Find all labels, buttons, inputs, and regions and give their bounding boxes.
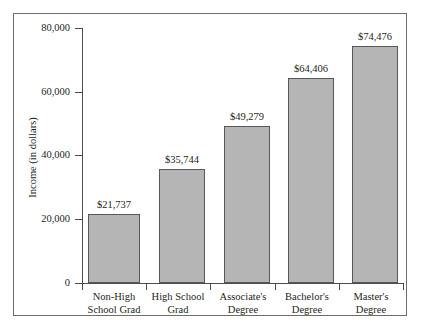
x-tick-mark-5 <box>403 283 404 290</box>
x-tick-mark-4 <box>339 283 340 290</box>
x-tick-mark-3 <box>275 283 276 290</box>
x-tick-mark-0 <box>82 283 83 290</box>
x-category-label-line-2: School Grad <box>80 304 148 317</box>
bar-value-label-masters-degree: $74,476 <box>335 31 415 42</box>
x-axis-line <box>82 283 404 284</box>
y-tick-label-40000: 40,000 <box>8 150 70 161</box>
bar-high-school-grad <box>159 169 205 283</box>
x-category-label-line-1: Associate's <box>209 291 277 304</box>
x-category-label-line-2: Grad <box>144 304 212 317</box>
bar-masters-degree <box>352 46 398 283</box>
y-axis-line <box>82 28 83 284</box>
x-category-label-line-1: High School <box>144 291 212 304</box>
bar-bachelors-degree <box>288 78 334 283</box>
x-category-label-line-2: Degree <box>273 304 341 317</box>
x-category-label-line-2: Degree <box>337 304 405 317</box>
bar-non-high-school-grad <box>88 214 140 283</box>
y-tick-mark-0 <box>75 283 82 284</box>
bar-value-label-non-high-school-grad: $21,737 <box>74 199 154 210</box>
bar-value-label-high-school-grad: $35,744 <box>142 154 222 165</box>
bar-associates-degree <box>224 126 270 283</box>
x-tick-mark-1 <box>146 283 147 290</box>
y-tick-mark-40000 <box>75 155 82 156</box>
x-category-label-line-2: Degree <box>209 304 277 317</box>
bar-chart-figure: Income (in dollars) 0 20,000 40,000 60,0… <box>0 0 423 332</box>
bar-value-label-associates-degree: $49,279 <box>207 111 287 122</box>
y-tick-label-60000: 60,000 <box>8 87 70 98</box>
plot-area: Income (in dollars) 0 20,000 40,000 60,0… <box>0 0 423 332</box>
y-tick-mark-60000 <box>75 92 82 93</box>
x-category-label-high-school-grad: High School Grad <box>144 291 212 316</box>
x-category-label-non-high-school-grad: Non-High School Grad <box>80 291 148 316</box>
y-tick-label-20000: 20,000 <box>8 214 70 225</box>
x-category-label-line-1: Master's <box>337 291 405 304</box>
y-tick-label-80000: 80,000 <box>8 23 70 34</box>
x-category-label-line-1: Non-High <box>80 291 148 304</box>
bar-value-label-bachelors-degree: $64,406 <box>271 63 351 74</box>
x-category-label-bachelors-degree: Bachelor's Degree <box>273 291 341 316</box>
x-tick-mark-2 <box>210 283 211 290</box>
x-category-label-masters-degree: Master's Degree <box>337 291 405 316</box>
y-tick-mark-20000 <box>75 219 82 220</box>
y-tick-mark-80000 <box>75 28 82 29</box>
x-category-label-associates-degree: Associate's Degree <box>209 291 277 316</box>
y-tick-label-0: 0 <box>8 278 70 289</box>
x-category-label-line-1: Bachelor's <box>273 291 341 304</box>
